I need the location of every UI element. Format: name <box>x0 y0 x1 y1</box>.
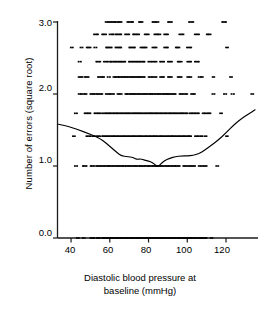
data-point <box>204 113 206 115</box>
data-point <box>88 76 90 78</box>
data-point <box>179 165 181 167</box>
data-point <box>134 47 136 49</box>
data-point <box>210 34 212 36</box>
data-point <box>121 93 123 95</box>
data-point <box>109 76 111 78</box>
data-point <box>120 34 122 36</box>
data-point <box>72 135 74 137</box>
data-point <box>144 76 146 78</box>
data-point <box>101 93 103 95</box>
data-point <box>132 21 134 23</box>
data-point <box>167 34 169 36</box>
data-point <box>86 93 88 95</box>
data-point <box>252 93 254 95</box>
data-point <box>190 76 192 78</box>
data-point <box>76 165 78 167</box>
data-point <box>190 47 192 49</box>
data-point <box>76 237 78 239</box>
data-point <box>157 21 159 23</box>
data-point <box>82 76 84 78</box>
data-point <box>213 93 215 95</box>
data-point <box>80 61 82 63</box>
data-point <box>163 61 165 63</box>
data-point <box>113 93 115 95</box>
data-point <box>93 47 95 49</box>
data-point <box>94 165 96 167</box>
data-point <box>156 61 158 63</box>
data-point <box>99 135 101 137</box>
data-point <box>225 21 227 23</box>
data-point <box>156 76 158 78</box>
data-point <box>99 61 101 63</box>
data-point <box>105 34 107 36</box>
data-point <box>80 47 82 49</box>
data-point <box>198 61 200 63</box>
smoother-line <box>58 110 255 167</box>
scatter-points <box>70 21 254 239</box>
data-point <box>124 61 126 63</box>
data-point <box>198 34 200 36</box>
chart-figure: Number of errors (square root) 3.0 2.0 1… <box>0 0 268 313</box>
data-point <box>90 47 92 49</box>
y-axis-ticks <box>53 22 58 238</box>
data-point <box>120 47 122 49</box>
plot-area <box>0 0 268 313</box>
data-point <box>186 113 188 115</box>
data-point <box>225 93 227 95</box>
data-point <box>74 135 76 137</box>
data-point <box>109 34 111 36</box>
data-point <box>146 47 148 49</box>
data-point <box>223 93 225 95</box>
data-point <box>229 76 231 78</box>
data-point <box>156 47 158 49</box>
data-point <box>171 21 173 23</box>
data-point <box>76 113 78 115</box>
data-point <box>221 113 223 115</box>
data-point <box>175 93 177 95</box>
data-point <box>206 237 208 239</box>
data-point <box>95 47 97 49</box>
data-point <box>86 165 88 167</box>
data-point <box>212 93 214 95</box>
data-point <box>213 76 215 78</box>
data-point <box>167 47 169 49</box>
data-point <box>178 47 180 49</box>
data-point <box>231 76 233 78</box>
data-point <box>96 61 98 63</box>
data-point <box>112 34 114 36</box>
data-point <box>171 76 173 78</box>
data-point <box>107 76 109 78</box>
data-point <box>250 93 252 95</box>
data-point <box>219 113 221 115</box>
data-point <box>89 113 91 115</box>
data-point <box>70 47 72 49</box>
data-point <box>103 76 105 78</box>
data-point <box>138 34 140 36</box>
data-point <box>209 113 211 115</box>
data-point <box>121 21 123 23</box>
data-point <box>202 76 204 78</box>
data-point <box>82 237 84 239</box>
data-point <box>111 47 113 49</box>
data-point <box>74 165 76 167</box>
data-point <box>217 165 219 167</box>
plot-svg <box>0 0 268 313</box>
data-point <box>227 47 229 49</box>
data-point <box>84 237 86 239</box>
data-point <box>107 61 109 63</box>
data-point <box>89 135 91 137</box>
axis-spines <box>58 21 259 238</box>
data-point <box>206 135 208 137</box>
data-point <box>211 237 213 239</box>
data-point <box>190 61 192 63</box>
data-point <box>215 165 217 167</box>
data-point <box>74 113 76 115</box>
data-point <box>194 93 196 95</box>
data-point <box>181 76 183 78</box>
data-point <box>142 21 144 23</box>
data-point <box>186 93 188 95</box>
data-point <box>210 237 212 239</box>
data-point <box>93 237 95 239</box>
data-point <box>231 93 233 95</box>
data-point <box>194 165 196 167</box>
